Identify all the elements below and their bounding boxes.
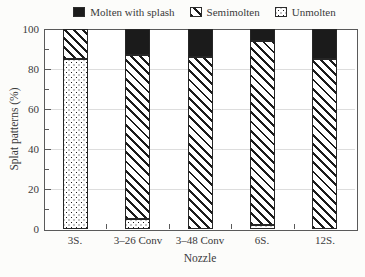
y-major-tick [45,149,51,150]
bar-segment-hatch [125,55,150,219]
y-minor-tick [45,129,49,130]
y-axis-title: Splat patterns (%) [7,29,21,229]
bar-segment-dots [250,225,275,229]
x-minor-tick [169,224,170,229]
y-tick-label: 40 [0,143,39,156]
y-tick-label: 60 [0,103,39,116]
y-tick-label: 20 [0,183,39,196]
y-minor-tick [45,209,49,210]
x-minor-tick [106,224,107,229]
bar-segment-hatch [188,57,213,229]
bar-segment-hatch [312,59,337,229]
dotted-square-icon [275,7,287,17]
y-minor-tick [45,89,49,90]
legend-item: Unmolten [275,5,336,19]
bar-segment-dots [63,59,88,229]
bar-segment-solid [188,29,213,57]
legend-label: Molten with splash [90,5,174,19]
y-major-tick [45,109,51,110]
bar-segment-hatch [63,29,88,59]
chart-legend: Molten with splashSemimoltenUnmolten [44,5,365,19]
x-tick-label: 12S. [280,234,365,247]
y-minor-tick [45,49,49,50]
x-minor-tick [231,224,232,229]
bar-segment-solid [125,29,150,55]
legend-item: Semimolten [190,5,260,19]
y-tick-label: 100 [0,23,39,36]
splat-patterns-chart: Molten with splashSemimoltenUnmolten Spl… [0,0,365,277]
legend-item: Molten with splash [73,5,174,19]
solid-black-square-icon [73,7,85,17]
y-major-tick [45,69,51,70]
bar-segment-solid [312,29,337,59]
x-axis-title: Nozzle [110,251,290,265]
y-major-tick [45,189,51,190]
legend-label: Semimolten [207,5,260,19]
y-tick-label: 80 [0,63,39,76]
y-minor-tick [45,169,49,170]
bar-segment-solid [250,29,275,41]
bar-segment-dots [125,219,150,229]
diagonal-hatch-square-icon [190,7,202,17]
legend-label: Unmolten [292,5,336,19]
bar-segment-hatch [250,41,275,225]
x-minor-tick [294,224,295,229]
